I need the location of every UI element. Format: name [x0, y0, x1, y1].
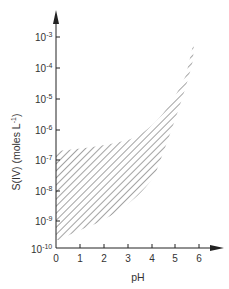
svg-text:10-8: 10-8: [35, 185, 52, 197]
x-tick-labels: 0 1 2 3 4 5 6: [53, 253, 202, 264]
svg-text:1: 1: [77, 253, 83, 264]
svg-text:0: 0: [53, 253, 59, 264]
x-ticks: [80, 244, 199, 248]
svg-text:10-10: 10-10: [31, 243, 52, 255]
svg-text:6: 6: [196, 253, 202, 264]
x-axis-title: pH: [131, 271, 144, 283]
svg-text:2: 2: [101, 253, 107, 264]
svg-text:10-3: 10-3: [35, 31, 52, 43]
x-axis-arrow-icon: [210, 245, 224, 251]
y-axis-arrow-icon: [53, 10, 59, 24]
svg-text:5: 5: [172, 253, 178, 264]
y-axis-title: S(IV) (moles L-1): [10, 114, 22, 191]
svg-text:10-5: 10-5: [35, 93, 52, 105]
y-tick-labels: 10-3 10-4 10-5 10-6 10-7 10-8 10-9 10-10: [31, 31, 52, 255]
chart: 10-3 10-4 10-5 10-6 10-7 10-8 10-9 10-10…: [0, 0, 229, 289]
svg-text:10-7: 10-7: [35, 154, 52, 166]
svg-text:10-9: 10-9: [35, 215, 52, 227]
svg-text:10-6: 10-6: [35, 124, 52, 136]
svg-text:10-4: 10-4: [35, 62, 52, 74]
svg-text:4: 4: [149, 253, 155, 264]
hatched-region: [56, 41, 194, 240]
svg-text:3: 3: [125, 253, 131, 264]
